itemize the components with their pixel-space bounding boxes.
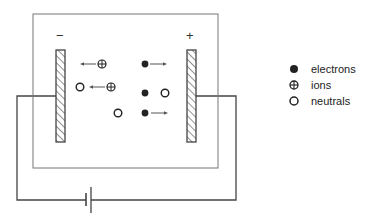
electron-dot-icon [142, 110, 149, 117]
legend-item-neutrals: neutrals [287, 94, 350, 108]
neutral-circle-icon [161, 89, 169, 97]
legend-label: ions [311, 78, 331, 92]
ion-particle [89, 83, 115, 91]
neutral-circle-icon [287, 94, 301, 108]
ion-particle [80, 60, 106, 68]
legend-item-ions: ions [287, 78, 331, 92]
wire-right [91, 96, 236, 200]
particles [76, 60, 169, 117]
neutral-circle-icon [114, 109, 122, 117]
electron-particle [142, 110, 168, 117]
neutral-circle-icon [76, 83, 84, 91]
anode-plate [187, 50, 196, 142]
ion-circled-plus-icon [98, 60, 106, 68]
legend-label: electrons [311, 62, 356, 76]
electron-dot-icon [287, 62, 301, 76]
arrow-left-icon [89, 85, 105, 89]
electron-particle [142, 90, 149, 97]
ion-circled-plus-icon [287, 78, 301, 92]
electrodes [56, 50, 196, 142]
wire-left [17, 96, 86, 200]
cathode-plate [56, 50, 65, 142]
cathode-polarity-label: − [56, 29, 64, 42]
electron-particle [142, 61, 167, 68]
electron-dot-icon [142, 90, 149, 97]
legend-label: neutrals [311, 94, 350, 108]
arrow-right-icon [150, 62, 167, 66]
arrow-left-icon [80, 62, 96, 66]
anode-polarity-label: + [186, 29, 194, 42]
neutral-particle [76, 83, 84, 91]
ion-circled-plus-icon [107, 83, 115, 91]
legend-item-electrons: electrons [287, 62, 356, 76]
electron-dot-icon [142, 61, 149, 68]
arrow-right-icon [151, 111, 168, 115]
circuit-wires [17, 96, 236, 213]
neutral-particle [161, 89, 169, 97]
discharge-diagram: − + electrons ions neutrals [0, 0, 372, 224]
neutral-particle [114, 109, 122, 117]
battery-icon [86, 187, 91, 213]
